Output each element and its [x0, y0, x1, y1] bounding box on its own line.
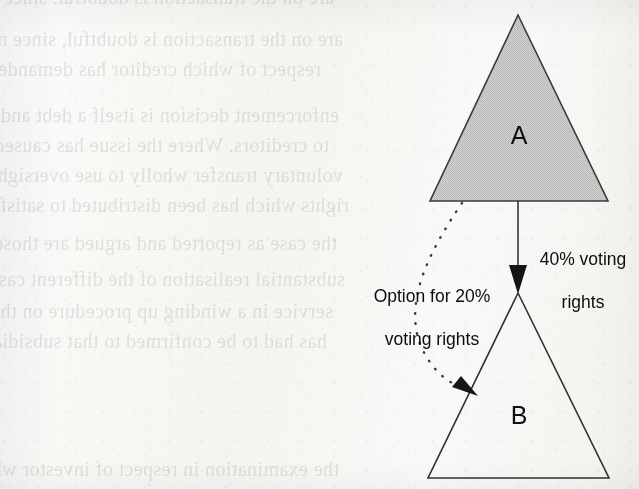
option-edge-label: Option for 20% voting rights — [352, 265, 512, 372]
scanned-page: are on the transaction is doubtful, sinc… — [0, 0, 639, 489]
holding-edge-label: 40% voting rights — [527, 228, 639, 335]
triangle-node-a — [430, 15, 608, 201]
option-arrow-head-icon — [452, 376, 478, 396]
option-edge-label-line-2: voting rights — [352, 329, 512, 350]
holding-edge-label-line-2: rights — [527, 292, 639, 313]
holding-edge-label-line-1: 40% voting — [527, 249, 639, 270]
node-b-label: B — [508, 403, 530, 428]
option-edge-label-line-1: Option for 20% — [352, 286, 512, 307]
node-a-label: A — [508, 123, 530, 148]
